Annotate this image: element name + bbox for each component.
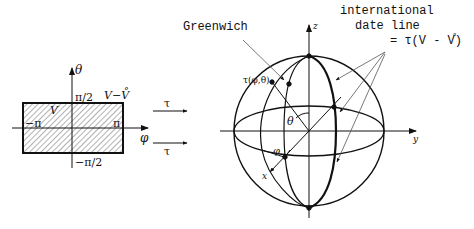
north-pole: [307, 54, 311, 58]
south-pole: [307, 206, 311, 210]
top-bound-label: π/2: [75, 92, 93, 103]
date-line-label-3: = τ(V - V̊): [390, 35, 462, 47]
point-phi: [283, 155, 287, 159]
date-line-label-2: date line: [355, 20, 420, 32]
date-line-leader-3: [337, 54, 385, 162]
y-axis-label: y: [413, 135, 418, 144]
phi-axis-label: φ: [140, 132, 148, 144]
point-tau: [270, 80, 274, 84]
date-line-label-1: international: [340, 5, 434, 17]
region-label: V: [50, 105, 58, 116]
right-bound-label: π: [113, 118, 120, 129]
corner-label: V−V̊: [104, 90, 129, 101]
greenwich-label: Greenwich: [183, 21, 248, 33]
z-axis-label: z: [313, 22, 318, 31]
theta-arc: [296, 113, 309, 118]
tau-label-bottom: τ: [164, 146, 170, 157]
x-axis-label: x: [262, 172, 267, 181]
sphere: [220, 25, 416, 218]
meridian-back: [284, 56, 309, 208]
greenwich-leader: [243, 40, 284, 80]
tau-label-top: τ: [164, 98, 170, 109]
date-line-meridian-front: [309, 56, 336, 208]
point-greenwich: [287, 82, 291, 86]
mapping-arrows: [153, 111, 187, 143]
phi-angle-label: φ: [273, 146, 280, 156]
point-tau-label: τ(φ,θ): [243, 76, 270, 85]
theta-angle-label: θ: [287, 116, 294, 127]
figure: θ φ π/2 −π/2 −π π V V−V̊ τ τ z y x θ φ τ…: [0, 0, 474, 229]
bottom-bound-label: −π/2: [75, 157, 102, 168]
point-date-line-equator: [332, 105, 336, 109]
left-bound-label: −π: [25, 118, 41, 129]
theta-axis-label: θ: [75, 64, 82, 76]
